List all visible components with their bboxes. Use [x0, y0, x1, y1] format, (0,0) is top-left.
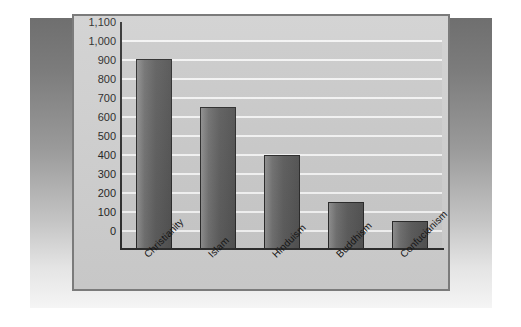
- chart-panel: 1,100 1,000 900 800 700 600 500 400 300 …: [72, 14, 450, 291]
- bar-series: [122, 40, 442, 250]
- y-axis-tick-labels: 1,100 1,000 900 800 700 600 500 400 300 …: [74, 22, 116, 250]
- y-axis-tick-label: 900: [74, 55, 116, 65]
- page-root: 1,100 1,000 900 800 700 600 500 400 300 …: [0, 0, 521, 327]
- y-axis-tick-label: 400: [74, 150, 116, 160]
- y-axis-tick-label: 100: [74, 207, 116, 217]
- bar-islam[interactable]: [200, 107, 236, 250]
- y-axis-tick-label: 600: [74, 112, 116, 122]
- y-axis-tick-label: 500: [74, 131, 116, 141]
- y-axis-tick-label: 800: [74, 74, 116, 84]
- bar-christianity[interactable]: [136, 59, 172, 250]
- y-axis-tick-label: 200: [74, 188, 116, 198]
- y-axis-tick-label: 1,100: [74, 17, 116, 27]
- y-axis-tick-label: 300: [74, 169, 116, 179]
- y-axis-tick-label: 0: [74, 226, 116, 236]
- y-axis-tick-label: 700: [74, 93, 116, 103]
- x-axis-tick-labels: Christianity Islam Hinduism Buddhism Con…: [122, 252, 442, 292]
- y-axis-line: [120, 22, 122, 250]
- y-axis-tick-label: 1,000: [74, 36, 116, 46]
